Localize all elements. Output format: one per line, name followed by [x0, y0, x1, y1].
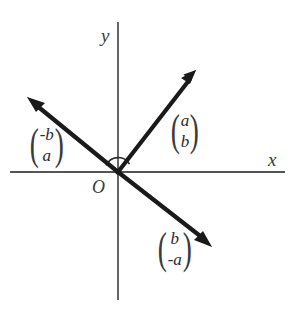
left-paren-icon: (: [158, 232, 167, 266]
vector-label-a-b-top: a: [181, 110, 190, 131]
vector-label-b-neg-a-top: b: [170, 228, 179, 249]
left-paren-icon: (: [30, 128, 39, 162]
vector-label-a-b-bottom: b: [181, 131, 190, 152]
right-paren-icon: ): [55, 128, 64, 162]
origin-point: [115, 169, 120, 174]
right-paren-icon: ): [190, 114, 199, 148]
vector-label-b-neg-a-bottom: -a: [168, 249, 182, 270]
vector-label-neg-b-a-top: -b: [40, 124, 54, 145]
vector-label-neg-b-a-entries: -b a: [39, 124, 55, 167]
origin-label: O: [92, 178, 105, 196]
vector-label-a-b-entries: a b: [180, 110, 191, 153]
right-paren-icon: ): [183, 232, 192, 266]
vector-label-neg-b-a: ( -b a ): [27, 124, 66, 167]
vector-label-b-neg-a: ( b -a ): [155, 228, 194, 271]
left-paren-icon: (: [171, 114, 180, 148]
vector-label-a-b: ( a b ): [168, 110, 202, 153]
vector-label-b-neg-a-entries: b -a: [167, 228, 183, 271]
vector-diagram-figure: y x O ( a b ) ( -b a ) ( b -a ): [0, 0, 296, 312]
x-axis-label: x: [268, 150, 276, 169]
y-axis-label: y: [101, 26, 109, 45]
vector-label-neg-b-a-bottom: a: [42, 145, 51, 166]
